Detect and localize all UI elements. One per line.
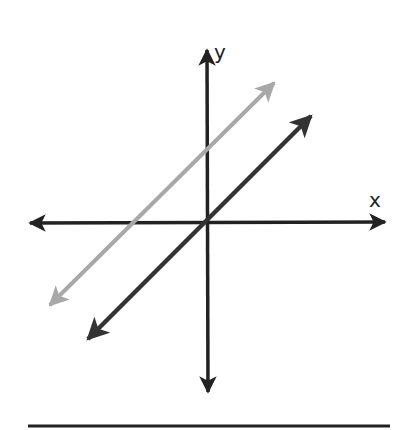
x-axis-label: x <box>369 190 381 210</box>
gray-parallel-line <box>50 83 274 305</box>
dark-parallel-line <box>88 116 311 339</box>
y-axis-label: y <box>214 42 226 62</box>
coordinate-plane <box>0 0 407 430</box>
